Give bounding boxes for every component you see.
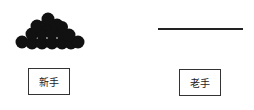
novice-label: 新手 — [39, 74, 59, 89]
novice-label-box: 新手 — [28, 68, 70, 95]
veteran-label-box: 老手 — [179, 69, 221, 96]
veteran-label: 老手 — [190, 75, 210, 90]
circle-pile-icon — [0, 0, 127, 60]
flat-line — [158, 28, 243, 30]
